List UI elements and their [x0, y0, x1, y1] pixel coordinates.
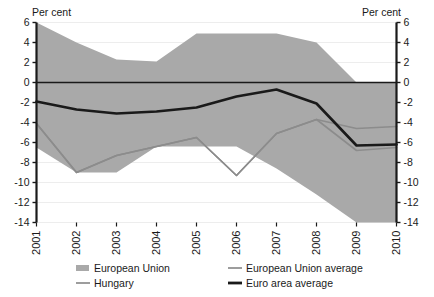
- x-axis-label-2007: 2007: [270, 231, 282, 255]
- x-axis-label-2010: 2010: [390, 231, 402, 255]
- y-tick-label-right: 2: [404, 56, 410, 68]
- y-tick-label-left: -12: [14, 196, 29, 208]
- legend-label: European Union: [94, 262, 170, 274]
- y-tick-label-left: 4: [24, 36, 30, 48]
- x-axis-label-2002: 2002: [70, 231, 82, 255]
- x-axis-label-2005: 2005: [190, 231, 202, 255]
- legend-swatch-icon: [76, 265, 89, 271]
- y-tick-label-left: -14: [14, 216, 29, 228]
- y-tick-label-left: 0: [24, 76, 30, 88]
- y-tick-label-left: -8: [20, 156, 29, 168]
- y-axis-label-right: Per cent: [362, 6, 401, 18]
- y-tick-label-right: -2: [404, 96, 413, 108]
- chart-container: Per cent Per cent 6420-2-4-6-8-10-12-14 …: [0, 0, 434, 297]
- budget-balance-area-chart: Per cent Per cent 6420-2-4-6-8-10-12-14 …: [0, 0, 434, 297]
- x-axis-label-2004: 2004: [150, 231, 162, 255]
- legend-label: European Union average: [246, 262, 363, 274]
- x-axis-label-2006: 2006: [230, 231, 242, 255]
- y-tick-label-right: -8: [404, 156, 413, 168]
- legend-label: Hungary: [94, 277, 134, 289]
- y-tick-label-left: -10: [14, 176, 29, 188]
- y-tick-label-right: -12: [404, 196, 419, 208]
- x-axis-label-2003: 2003: [110, 231, 122, 255]
- y-tick-label-left: -2: [20, 96, 29, 108]
- y-tick-label-right: 4: [404, 36, 410, 48]
- y-tick-label-right: 6: [404, 16, 410, 28]
- x-axis-label-2008: 2008: [310, 231, 322, 255]
- x-axis-label-2001: 2001: [30, 231, 42, 255]
- y-tick-label-right: -4: [404, 116, 413, 128]
- y-tick-label-right: -6: [404, 136, 413, 148]
- legend-label: Euro area average: [246, 277, 333, 289]
- y-tick-label-left: -4: [20, 116, 29, 128]
- legend-item-1[interactable]: European Union average: [228, 262, 363, 274]
- y-tick-label-left: 6: [24, 16, 30, 28]
- y-tick-label-right: 0: [404, 76, 410, 88]
- y-tick-label-left: -6: [20, 136, 29, 148]
- x-axis-label-2009: 2009: [350, 231, 362, 255]
- y-tick-label-right: -10: [404, 176, 419, 188]
- y-tick-label-right: -14: [404, 216, 419, 228]
- y-tick-label-left: 2: [24, 56, 30, 68]
- y-axis-label-left: Per cent: [32, 6, 71, 18]
